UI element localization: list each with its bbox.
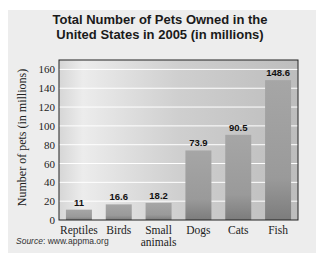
source-label: Source <box>16 236 43 246</box>
data-label: 11 <box>74 197 85 208</box>
bar <box>146 203 172 220</box>
x-tick-label: animals <box>141 236 177 248</box>
plot-background <box>59 60 298 220</box>
source-note: Source: www.appma.org <box>16 236 109 246</box>
x-tick-label: Small <box>145 224 172 236</box>
bar <box>185 150 211 220</box>
bar <box>225 135 251 220</box>
y-tick-label: 40 <box>44 176 56 188</box>
data-label: 73.9 <box>189 137 208 148</box>
bar <box>66 210 92 220</box>
x-tick-label: Cats <box>228 224 249 236</box>
bar-chart: 02040608010012014016011Reptiles16.6Birds… <box>0 0 320 273</box>
data-label: 16.6 <box>110 191 129 202</box>
bar <box>265 80 291 220</box>
data-label: 18.2 <box>149 190 168 201</box>
bar <box>106 204 132 220</box>
y-tick-label: 60 <box>44 158 56 170</box>
x-tick-label: Dogs <box>186 224 211 237</box>
x-tick-label: Birds <box>106 224 131 236</box>
y-tick-label: 0 <box>50 214 56 226</box>
data-label: 90.5 <box>229 122 248 133</box>
y-tick-label: 120 <box>39 101 56 113</box>
data-label: 148.6 <box>266 67 290 78</box>
y-tick-label: 80 <box>44 139 56 151</box>
y-tick-label: 140 <box>39 82 56 94</box>
source-text: : www.appma.org <box>43 236 109 246</box>
y-tick-label: 100 <box>39 120 56 132</box>
x-tick-label: Fish <box>268 224 288 236</box>
y-tick-label: 160 <box>39 63 56 75</box>
y-tick-label: 20 <box>44 195 56 207</box>
